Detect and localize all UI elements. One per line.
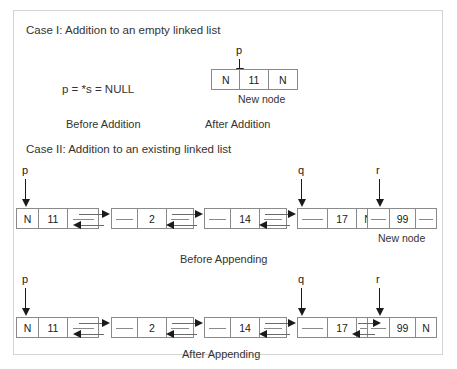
node-next-cell	[416, 209, 436, 228]
node-prev-cell	[368, 209, 390, 228]
node-data-cell: 99	[390, 318, 416, 337]
after-link-next-3	[265, 323, 289, 324]
case1-before-caption: Before Addition	[66, 119, 141, 130]
node-prev-cell	[298, 318, 328, 337]
after-link-prev-1	[80, 334, 104, 335]
after-pointer-arrow-p	[25, 288, 26, 309]
before-appending-caption: Before Appending	[180, 254, 267, 265]
after-link-next-1	[79, 323, 103, 324]
case1-heading: Case I: Addition to an empty linked list	[26, 25, 220, 37]
before-pointer-arrow-q	[301, 179, 302, 200]
node-prev-cell	[112, 209, 138, 228]
after-appending-caption: After Appending	[182, 349, 260, 360]
before-new-node: 99	[367, 208, 437, 229]
before-link-next-3	[265, 214, 289, 215]
after-link-prev-2	[173, 334, 197, 335]
case1-expression: p = *s = NULL	[62, 84, 134, 96]
before-link-prev-1	[80, 225, 104, 226]
after-pointer-label-q: q	[298, 274, 304, 285]
node-prev-cell	[298, 209, 328, 228]
before-pointer-label-r: r	[376, 165, 380, 176]
before-new-node-label: New node	[378, 233, 425, 244]
node-data-cell: 17	[328, 209, 357, 228]
case1-new-node-label: New node	[238, 94, 285, 105]
case1-after-caption: After Addition	[205, 119, 270, 130]
case1-pointer-arrow-p	[239, 59, 240, 69]
after-link-next-4	[358, 323, 374, 324]
diagram-frame: Case I: Addition to an empty linked list…	[13, 10, 443, 355]
after-link-prev-4	[359, 334, 375, 335]
node-prev-cell: N	[17, 318, 39, 337]
after-link-prev-3	[266, 334, 290, 335]
node-data-cell: 99	[390, 209, 416, 228]
node-data-cell: 2	[138, 209, 167, 228]
node-prev-cell: N	[17, 209, 39, 228]
before-pointer-label-p: p	[22, 165, 28, 176]
before-link-next-1	[79, 214, 103, 215]
node-next-cell: N	[416, 318, 436, 337]
after-pointer-arrow-r	[379, 288, 380, 309]
node-prev-cell	[112, 318, 138, 337]
before-pointer-label-q: q	[298, 165, 304, 176]
after-link-next-2	[172, 323, 196, 324]
before-pointer-arrow-r	[379, 179, 380, 200]
node-next-cell: N	[269, 70, 297, 89]
before-pointer-arrow-p	[25, 179, 26, 200]
case1-new-node: N 11 N	[211, 69, 298, 90]
node-data-cell: 11	[39, 209, 68, 228]
before-link-prev-3	[266, 225, 290, 226]
case2-heading: Case II: Addition to an existing linked …	[26, 144, 231, 156]
node-prev-cell: N	[212, 70, 240, 89]
node-data-cell: 11	[240, 70, 268, 89]
after-pointer-label-p: p	[22, 274, 28, 285]
node-prev-cell	[205, 318, 231, 337]
node-data-cell: 14	[231, 318, 260, 337]
node-data-cell: 11	[39, 318, 68, 337]
node-data-cell: 14	[231, 209, 260, 228]
case1-pointer-label-p: p	[236, 45, 242, 56]
after-pointer-arrow-q	[301, 288, 302, 309]
after-pointer-label-r: r	[376, 274, 380, 285]
before-link-prev-2	[173, 225, 197, 226]
before-link-next-2	[172, 214, 196, 215]
node-data-cell: 2	[138, 318, 167, 337]
node-prev-cell	[205, 209, 231, 228]
